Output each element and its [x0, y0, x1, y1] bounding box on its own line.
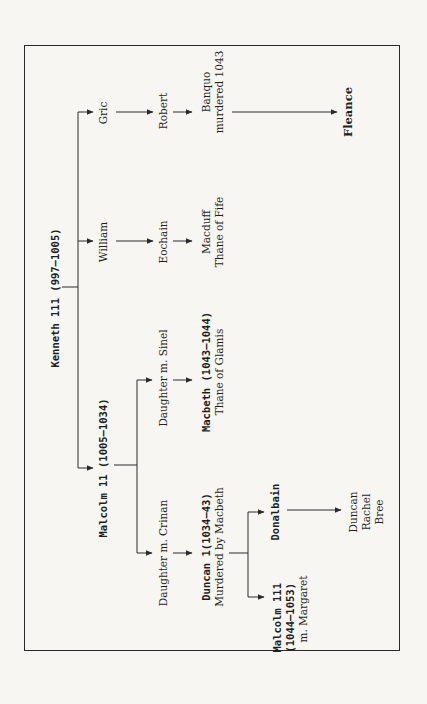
- node-note: Thane of Glamis: [213, 312, 226, 432]
- node-daughter-crinan: Daughter m. Crinan: [157, 500, 170, 607]
- node-macduff: Macduff Thane of Fife: [200, 197, 226, 268]
- node-name: Macduff: [200, 197, 213, 268]
- node-name: Donalbain: [269, 484, 282, 541]
- node-malcolm-ii: Malcolm 11 (1005–1034): [97, 398, 110, 537]
- node-note: m. Margaret: [297, 575, 310, 652]
- node-name: Macbeth (1043–1044): [200, 312, 213, 432]
- node-name: Eochain: [157, 220, 170, 263]
- node-duncan-i: Duncan 1(1034–43) Murdered by Macbeth: [200, 487, 226, 607]
- node-gric: Gric: [97, 102, 110, 125]
- node-kenneth-iii: Kenneth 111 (997–1005): [49, 228, 62, 367]
- node-name: Daughter m. Sinel: [157, 329, 170, 426]
- node-name: Fleance: [342, 87, 355, 137]
- node-note: Thane of Fife: [213, 197, 226, 268]
- node-note: Murdered by Macbeth: [213, 487, 226, 607]
- node-daughter-sinel: Daughter m. Sinel: [157, 329, 170, 426]
- node-robert: Robert: [157, 93, 170, 129]
- node-descendants: Duncan Rachel Bree: [347, 492, 386, 533]
- node-note: murdered 1043: [213, 51, 226, 134]
- descendant-duncan: Duncan: [347, 492, 360, 533]
- node-dates: (1044–1053): [284, 575, 297, 652]
- descendant-bree: Bree: [373, 492, 386, 533]
- node-name: William: [97, 222, 110, 262]
- node-macbeth: Macbeth (1043–1044) Thane of Glamis: [200, 312, 226, 432]
- node-william: William: [97, 222, 110, 262]
- node-name: Banquo: [200, 51, 213, 134]
- node-eochain: Eochain: [157, 220, 170, 263]
- node-name: Kenneth 111 (997–1005): [49, 228, 62, 367]
- descendant-rachel: Rachel: [360, 492, 373, 533]
- node-malcolm-iii: Malcolm 111 (1044–1053) m. Margaret: [271, 575, 310, 652]
- node-banquo: Banquo murdered 1043: [200, 51, 226, 134]
- node-name: Malcolm 11 (1005–1034): [97, 398, 110, 537]
- node-name: Duncan 1(1034–43): [200, 487, 213, 607]
- node-donalbain: Donalbain: [269, 484, 282, 541]
- node-name: Gric: [97, 102, 110, 125]
- node-fleance: Fleance: [342, 87, 355, 137]
- node-name: Robert: [157, 93, 170, 129]
- node-name: Daughter m. Crinan: [157, 500, 170, 607]
- node-name: Malcolm 111: [271, 575, 284, 652]
